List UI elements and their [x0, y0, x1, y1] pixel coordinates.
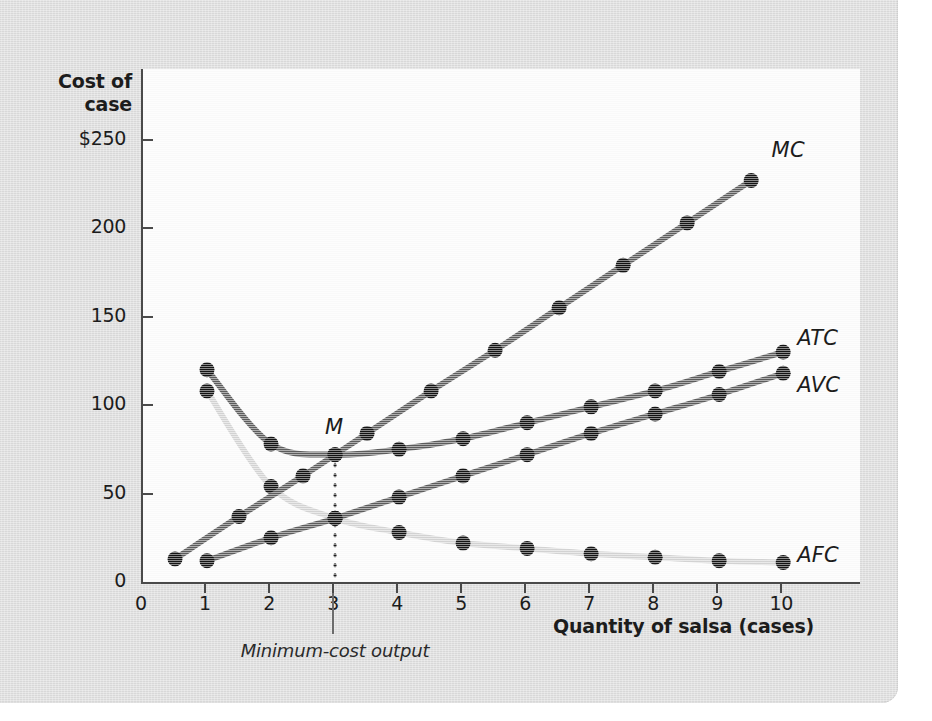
x-tick-label-origin: 0 [116, 592, 166, 614]
y-tick-mark [141, 404, 153, 406]
curve-mc [168, 173, 759, 567]
data-point-afc [584, 546, 599, 561]
data-point-avc [712, 387, 727, 402]
curve-avc [200, 366, 791, 569]
x-tick-label: 10 [756, 592, 806, 614]
minimum-point-label: M [325, 415, 343, 439]
data-point-avc [200, 553, 215, 568]
data-point-mc [616, 258, 631, 273]
x-tick-label: 9 [692, 592, 742, 614]
y-axis-title-line-1: Cost of [36, 70, 132, 93]
curve-label-avc: AVC [797, 373, 840, 397]
y-tick-label: 50 [40, 481, 126, 503]
data-point-mc [424, 383, 439, 398]
data-point-afc [648, 550, 663, 565]
x-tick-label: 4 [372, 592, 422, 614]
y-tick-label: $250 [40, 127, 126, 149]
y-tick-label: 200 [40, 215, 126, 237]
data-point-avc [776, 366, 791, 381]
x-tick-label: 2 [244, 592, 294, 614]
curve-label-mc: MC [772, 138, 805, 162]
data-point-atc [456, 431, 471, 446]
x-axis-title: Quantity of salsa (cases) [553, 615, 814, 637]
curve-label-afc: AFC [797, 543, 839, 567]
data-point-mc [552, 300, 567, 315]
data-point-mc [232, 509, 247, 524]
curve-line-avc [207, 373, 783, 561]
data-point-atc [584, 399, 599, 414]
data-point-atc [648, 383, 663, 398]
y-tick-mark [141, 493, 153, 495]
data-point-mc [360, 426, 375, 441]
data-point-mc [744, 173, 759, 188]
data-point-afc [392, 525, 407, 540]
data-point-avc-minimum [328, 511, 343, 526]
data-point-afc [456, 536, 471, 551]
y-tick-label: 0 [40, 569, 126, 591]
curve-atc [200, 345, 791, 463]
data-point-avc [456, 468, 471, 483]
data-point-avc [264, 530, 279, 545]
curve-line-afc [207, 391, 783, 563]
data-point-atc [520, 415, 535, 430]
y-tick-label: 100 [40, 392, 126, 414]
y-tick-mark [141, 227, 153, 229]
x-tick-label: 5 [436, 592, 486, 614]
data-point-mc [488, 343, 503, 358]
minimum-cost-leader-line [332, 593, 334, 634]
data-point-atc [712, 364, 727, 379]
data-point-avc [520, 447, 535, 462]
data-point-mc [680, 215, 695, 230]
data-point-avc [584, 426, 599, 441]
data-point-afc [200, 383, 215, 398]
data-point-mc [296, 468, 311, 483]
data-point-atc [264, 437, 279, 452]
data-point-afc [776, 555, 791, 570]
x-tick-label: 7 [564, 592, 614, 614]
curve-label-atc: ATC [797, 326, 838, 350]
y-tick-label: 150 [40, 304, 126, 326]
y-tick-mark [141, 316, 153, 318]
data-point-avc [392, 490, 407, 505]
data-point-afc [520, 541, 535, 556]
x-tick-label: 6 [500, 592, 550, 614]
plot-area [141, 69, 860, 584]
minimum-cost-caption: Minimum-cost output [200, 640, 470, 661]
x-tick-label: 1 [180, 592, 230, 614]
data-point-mc [168, 552, 183, 567]
data-point-avc [648, 406, 663, 421]
data-point-atc-minimum [328, 447, 343, 462]
data-point-afc [712, 553, 727, 568]
x-tick-label: 8 [628, 592, 678, 614]
cost-curves-canvas [143, 69, 860, 582]
curve-line-mc [175, 180, 751, 559]
data-point-atc [776, 345, 791, 360]
curve-afc [200, 383, 791, 570]
y-axis-title-line-2: case [36, 93, 132, 116]
y-tick-mark [141, 139, 153, 141]
y-axis-title: Cost of case [36, 70, 132, 116]
data-point-atc [392, 442, 407, 457]
data-point-atc [200, 362, 215, 377]
